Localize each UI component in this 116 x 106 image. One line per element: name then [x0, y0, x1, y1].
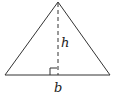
height-label: h	[61, 35, 69, 50]
triangle-diagram: h b	[0, 0, 116, 106]
base-label: b	[54, 80, 62, 95]
right-angle-marker	[50, 68, 57, 75]
